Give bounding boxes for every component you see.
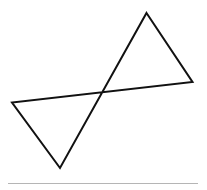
bowtie-shape: [12, 13, 193, 168]
bowtie-diagram: [0, 0, 207, 190]
